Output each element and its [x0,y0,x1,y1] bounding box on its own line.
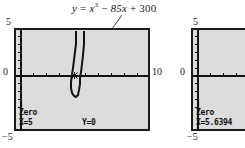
figure-container: y = x3 − 85x + 300 5 0 10 −5 [0,0,245,148]
equation-term1-exponent: 3 [95,1,99,9]
y-tick [195,68,199,69]
y-tick [195,91,199,92]
equation-term2: 85x [111,2,127,14]
left-screen-mode-label: Zero [19,109,37,117]
right-screen-x-readout: X=5.6394 [196,119,232,127]
right-screen-label-origin: 0 [180,66,185,77]
right-screen-x-axis [193,75,245,77]
x-tick [223,73,224,77]
left-screen-x-readout: X=5 [19,119,33,127]
left-screen-plot-area: | Zero X=5 Y=0 [16,30,148,129]
equation-operator-1: − [101,2,107,14]
right-screen-plot-area: | Zero X=5.6394 [193,30,245,129]
y-tick [195,60,199,61]
y-tick [195,52,199,53]
equation-operator-2: + [130,2,136,14]
y-tick [195,83,199,84]
equation-lhs: y [72,2,77,14]
left-screen-label-origin: 0 [3,66,8,77]
y-tick [195,36,199,37]
right-screen-display[interactable]: | Zero X=5.6394 [191,28,245,131]
left-screen-cursor-bar: | [19,100,24,107]
x-tick [236,73,237,77]
equation-label: y = x3 − 85x + 300 [72,1,156,14]
right-screen-label-ymax: 5 [193,16,198,27]
graph-cursor-icon [71,72,78,79]
left-screen-label-xmax: 10 [152,66,162,77]
equation-term3: 300 [139,2,156,14]
left-screen-label-ymax: 5 [6,16,11,27]
right-screen-mode-label: Zero [196,109,214,117]
left-screen-label-ymin: −5 [2,131,13,142]
right-screen-cursor-bar: | [196,100,201,107]
right-screen-label-ymin: −5 [187,131,198,142]
x-tick [210,73,211,77]
equation-equals: = [80,2,86,14]
left-screen-display[interactable]: | Zero X=5 Y=0 [14,28,150,131]
y-tick [195,44,199,45]
left-screen-y-readout: Y=0 [82,119,96,127]
